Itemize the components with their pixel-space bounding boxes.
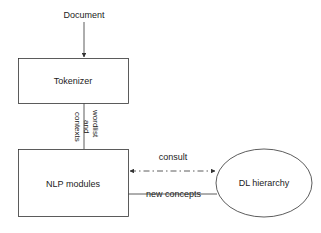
document-label: Document [63,10,105,20]
new-concepts-label: new concepts [146,189,202,199]
diagram-canvas: Document Tokenizer wordlist and contexts… [0,0,321,233]
nlp-modules-node: NLP modules [19,150,129,217]
edge-label-and: and [82,120,91,133]
tokenizer-node: Tokenizer [19,59,129,104]
nlp-modules-label: NLP modules [46,179,100,189]
dl-hierarchy-label: DL hierarchy [239,178,290,188]
tokenizer-label: Tokenizer [54,76,93,86]
edge-label-contexts: contexts [73,112,82,142]
dl-hierarchy-node: DL hierarchy [216,149,312,217]
consult-label: consult [159,152,188,162]
edge-label-wordlist: wordlist [91,109,100,138]
